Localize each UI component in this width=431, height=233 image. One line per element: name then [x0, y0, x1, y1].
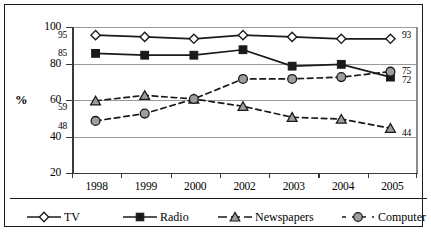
series-newspapers: [91, 91, 396, 133]
data-point: [386, 67, 395, 76]
data-point: [140, 109, 149, 118]
chart-series-layer: [0, 0, 431, 233]
data-point: [337, 34, 346, 43]
data-point: [189, 34, 198, 43]
data-point: [239, 75, 248, 84]
data-point: [91, 31, 100, 40]
data-point: [140, 32, 149, 41]
data-point: [336, 114, 346, 123]
data-point: [288, 62, 296, 70]
data-point: [92, 49, 100, 57]
data-point: [386, 34, 395, 43]
data-point: [337, 73, 346, 82]
data-point: [189, 95, 198, 104]
series-tv: [91, 31, 395, 44]
data-point: [337, 60, 345, 68]
data-point: [91, 117, 100, 126]
data-point: [190, 51, 198, 59]
data-point: [239, 46, 247, 54]
data-point: [288, 32, 297, 41]
data-point: [141, 51, 149, 59]
data-point: [288, 75, 297, 84]
data-point: [238, 31, 247, 40]
